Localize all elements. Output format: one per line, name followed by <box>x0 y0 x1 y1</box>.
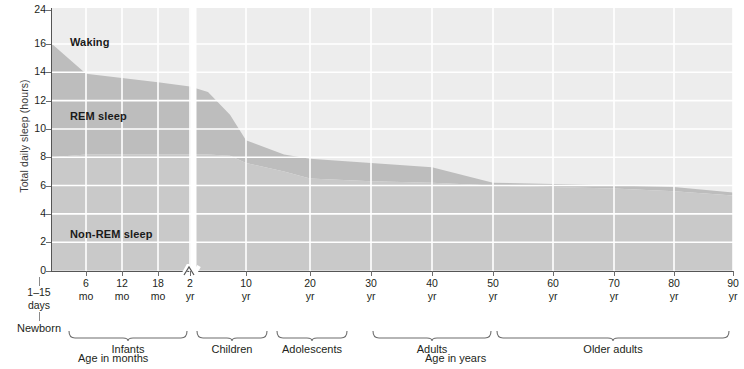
age-group-label-older-adults: Older adults <box>496 343 730 356</box>
y-tickmark-6 <box>46 186 51 187</box>
x-tick-unit: yr <box>592 290 636 303</box>
x-tick-value: 60 <box>547 277 559 289</box>
y-tick-0: 0 <box>14 265 46 276</box>
x-tick-value: 90 <box>727 277 739 289</box>
x-tick-2-yr: 2yr <box>168 277 212 302</box>
x-tick-unit: yr <box>288 290 332 303</box>
x-tickmark-40-yr <box>432 271 433 276</box>
y-axis-line <box>51 8 52 272</box>
y-tick-12: 12 <box>14 95 46 106</box>
x-tick-value: 6 <box>83 277 89 289</box>
x-tick-unit: yr <box>224 290 268 303</box>
x-tick-value: 18 <box>152 277 164 289</box>
bracket-adults <box>372 330 492 342</box>
x-tick-value: 2 <box>187 277 193 289</box>
x-tickmark-18-mo <box>158 271 159 276</box>
x-tickmark-50-yr <box>493 271 494 276</box>
bracket-children <box>196 330 268 342</box>
newborn-tick-top <box>39 277 40 286</box>
x-axis-line <box>51 271 734 272</box>
region-label-non-rem-sleep: Non-REM sleep <box>70 228 153 240</box>
x-tick-70-yr: 70yr <box>592 277 636 302</box>
newborn-tick-bottom <box>39 312 40 321</box>
region-label-waking: Waking <box>70 36 110 48</box>
x-tick-value: 70 <box>608 277 620 289</box>
newborn-unit: days <box>16 299 62 312</box>
y-tickmark-24 <box>46 10 51 11</box>
y-tick-16: 16 <box>14 38 46 49</box>
x-tick-unit: yr <box>410 290 454 303</box>
bracket-adolescents <box>276 330 348 342</box>
x-tickmark-80-yr <box>674 271 675 276</box>
age-group-label-adolescents: Adolescents <box>276 343 348 356</box>
x-tickmark-2-yr <box>190 271 191 276</box>
x-tick-value: 12 <box>116 277 128 289</box>
x-tick-value: 40 <box>426 277 438 289</box>
y-tick-4: 4 <box>14 208 46 219</box>
x-tickmark-12-mo <box>122 271 123 276</box>
newborn-label: Newborn <box>16 322 62 334</box>
x-tick-unit: yr <box>531 290 575 303</box>
x-tick-value: 80 <box>668 277 680 289</box>
x-axis-title-years: Age in years <box>425 352 486 364</box>
y-tickmark-14 <box>46 72 51 73</box>
x-tick-value: 30 <box>365 277 377 289</box>
x-tickmark-10-yr <box>246 271 247 276</box>
y-tickmark-16 <box>46 44 51 45</box>
y-tickmark-8 <box>46 157 51 158</box>
x-tick-50-yr: 50yr <box>471 277 515 302</box>
x-tickmark-20-yr <box>310 271 311 276</box>
x-tickmark-30-yr <box>371 271 372 276</box>
newborn-range: 1–15 <box>16 286 62 299</box>
y-tick-24: 24 <box>14 4 46 15</box>
y-tick-6: 6 <box>14 180 46 191</box>
x-tick-unit: yr <box>349 290 393 303</box>
x-tick-60-yr: 60yr <box>531 277 575 302</box>
y-tickmark-12 <box>46 101 51 102</box>
x-tickmark-6-mo <box>86 271 87 276</box>
plot-area: Waking REM sleep Non-REM sleep <box>52 8 733 271</box>
bracket-older-adults <box>496 330 730 342</box>
x-tick-30-yr: 30yr <box>349 277 393 302</box>
x-tickmark-90-yr <box>733 271 734 276</box>
x-tick-90-yr: 90yr <box>711 277 744 302</box>
axis-break-band <box>191 8 197 271</box>
x-tick-unit: yr <box>711 290 744 303</box>
x-axis-title-months: Age in months <box>78 352 148 364</box>
chart-areas <box>52 8 733 271</box>
x-tick-unit: yr <box>471 290 515 303</box>
y-tick-14: 14 <box>14 66 46 77</box>
x-tick-value: 50 <box>487 277 499 289</box>
x-tick-40-yr: 40yr <box>410 277 454 302</box>
y-tickmark-2 <box>46 242 51 243</box>
bracket-infants <box>68 330 188 342</box>
y-tick-8: 8 <box>14 151 46 162</box>
y-tick-2: 2 <box>14 236 46 247</box>
age-group-label-children: Children <box>196 343 268 356</box>
y-tickmark-0 <box>46 271 51 272</box>
x-tickmark-70-yr <box>614 271 615 276</box>
x-tick-10-yr: 10yr <box>224 277 268 302</box>
x-tickmark-60-yr <box>553 271 554 276</box>
x-tick-20-yr: 20yr <box>288 277 332 302</box>
x-tick-80-yr: 80yr <box>652 277 696 302</box>
y-tick-10: 10 <box>14 123 46 134</box>
region-label-rem-sleep: REM sleep <box>70 110 127 122</box>
x-tick-value: 10 <box>240 277 252 289</box>
y-tickmark-4 <box>46 214 51 215</box>
x-tick-value: 20 <box>304 277 316 289</box>
y-tickmark-10 <box>46 129 51 130</box>
x-tick-unit: yr <box>168 290 212 303</box>
x-tick-unit: yr <box>652 290 696 303</box>
newborn-marker: 1–15 days Newborn <box>16 277 62 334</box>
